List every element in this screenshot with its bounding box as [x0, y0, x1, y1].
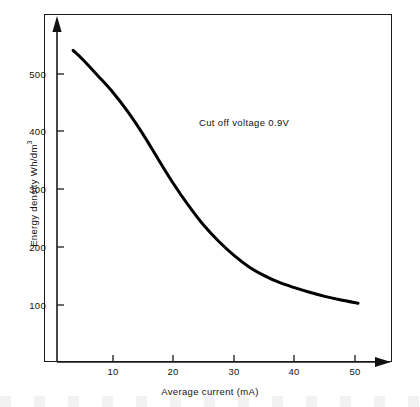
- x-tick-label-30: 30: [228, 366, 239, 377]
- chart-canvas: [0, 0, 420, 407]
- data-series-line: [73, 50, 358, 303]
- chart-figure: 500 400 300 200 100 10 20 30 40 50 Avera…: [0, 0, 420, 407]
- y-axis-title-exponent: 3: [26, 140, 33, 144]
- arrow-right-icon: [375, 357, 391, 367]
- y-axis-title-text: Energy density Wh/dm: [28, 144, 39, 247]
- y-axis-ticks: [57, 74, 64, 305]
- y-axis-title: Energy density Wh/dm3: [28, 114, 39, 274]
- y-tick-label-100: 100: [16, 300, 46, 311]
- x-tick-label-50: 50: [349, 366, 360, 377]
- cut-off-voltage-annotation: Cut off voltage 0.9V: [199, 117, 289, 128]
- x-tick-label-10: 10: [107, 366, 118, 377]
- x-tick-label-40: 40: [288, 366, 299, 377]
- y-tick-label-500: 500: [16, 69, 46, 80]
- x-axis-ticks: [113, 355, 355, 362]
- x-tick-label-20: 20: [167, 366, 178, 377]
- x-axis-title: Average current (mA): [0, 386, 420, 397]
- arrow-up-icon: [52, 16, 61, 32]
